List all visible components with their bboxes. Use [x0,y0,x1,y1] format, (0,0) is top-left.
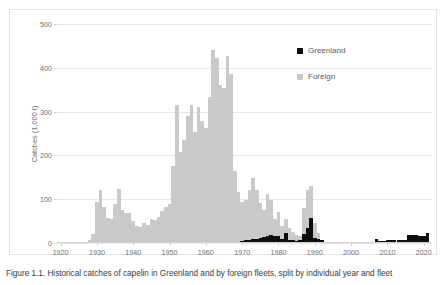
x-axis-tick-label: 1980 [270,248,286,257]
x-axis-tick-label: 1990 [307,248,323,257]
x-axis-tick-mark [278,243,279,246]
legend-label-foreign: Foreign [308,72,335,81]
x-axis-tick-label: 1940 [125,248,141,257]
figure-container: Catches (1,000 t) 0100200300400500 19201… [0,0,448,285]
y-axis-tick-label: 0 [48,239,52,248]
y-axis-tick-label: 400 [40,63,52,72]
y-axis-tick-mark [54,199,57,200]
x-axis-tick-mark [351,243,352,246]
legend-item-foreign: Foreign [297,72,407,81]
x-axis-tick-mark [133,243,134,246]
x-axis-tick-mark [170,243,171,246]
x-axis-tick-label: 1950 [162,248,178,257]
legend-item-greenland: Greenland [297,46,407,55]
y-axis-tick-mark [54,24,57,25]
x-axis-tick-mark [242,243,243,246]
x-axis-tick-mark [206,243,207,246]
gridline [57,243,431,244]
chart-frame: Catches (1,000 t) 0100200300400500 19201… [9,9,437,255]
y-axis-tick-mark [54,68,57,69]
square-marker-icon [297,48,303,54]
x-axis-tick-mark [97,243,98,246]
x-axis-tick-label: 2020 [416,248,432,257]
x-axis-tick-label: 1930 [89,248,105,257]
x-axis-tick-label: 2010 [379,248,395,257]
y-axis-tick-mark [54,243,57,244]
y-axis-title-wrap: Catches (1,000 t) [23,24,37,243]
y-axis-tick-label: 500 [40,20,52,29]
x-axis-line [57,242,431,243]
y-axis-tick-mark [54,112,57,113]
y-axis-tick-label: 200 [40,151,52,160]
x-axis-tick-label: 1920 [53,248,69,257]
bar-column [426,24,430,243]
x-axis-tick-mark [315,243,316,246]
x-axis-tick-mark [424,243,425,246]
x-axis-tick-mark [61,243,62,246]
x-axis-tick-label: 2000 [343,248,359,257]
x-axis-tick-label: 1960 [198,248,214,257]
legend-label-greenland: Greenland [308,46,345,55]
figure-caption: Figure 1.1. Historical catches of capeli… [6,268,442,279]
y-axis-tick-label: 300 [40,107,52,116]
x-axis-tick-mark [387,243,388,246]
square-marker-icon [297,74,303,80]
chart-legend: Greenland Foreign [297,46,407,98]
y-axis-title: Catches (1,000 t) [30,105,39,162]
y-axis-tick-mark [54,155,57,156]
y-axis-tick-label: 100 [40,195,52,204]
x-axis-tick-label: 1970 [234,248,250,257]
